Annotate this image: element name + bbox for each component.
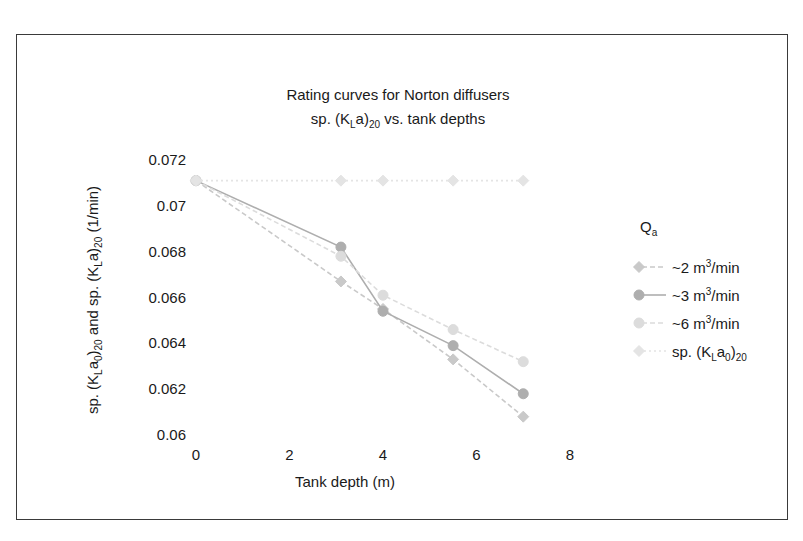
y-tick-label: 0.068 — [148, 243, 186, 260]
x-axis-title: Tank depth (m) — [295, 473, 395, 490]
y-tick-label: 0.066 — [148, 289, 186, 306]
data-point-marker — [378, 175, 389, 186]
data-point-marker — [518, 357, 528, 367]
data-point-marker — [336, 251, 346, 261]
series-diamond — [191, 175, 529, 186]
legend-item-label[interactable]: sp. (KLa0)20 — [672, 343, 747, 363]
chart-title-line1: Rating curves for Norton diffusers — [286, 86, 509, 103]
data-point-marker — [634, 318, 644, 328]
series-circle — [191, 176, 528, 399]
x-tick-label: 2 — [285, 446, 293, 463]
x-tick-label: 6 — [472, 446, 480, 463]
x-tick-label: 8 — [566, 446, 574, 463]
legend-items-group: ~2 m3/min~3 m3/min~6 m3/minsp. (KLa0)20 — [634, 258, 748, 363]
series-circle — [191, 176, 528, 367]
data-point-marker — [448, 354, 459, 365]
data-point-marker — [335, 276, 346, 287]
data-point-marker — [634, 346, 645, 357]
y-tick-label: 0.064 — [148, 334, 186, 351]
y-tick-label: 0.06 — [157, 426, 186, 443]
chart-figure: Rating curves for Norton diffusers sp. (… — [0, 0, 803, 541]
data-point-marker — [448, 325, 458, 335]
y-axis-tick-labels: 0.060.0620.0640.0660.0680.070.072 — [148, 151, 186, 443]
data-point-marker — [518, 389, 528, 399]
y-axis-title: sp. (KLa0)20 and sp. (KLa)20 (1/min) — [84, 186, 104, 414]
legend-item-label[interactable]: ~6 m3/min — [672, 314, 740, 332]
data-point-marker — [378, 306, 388, 316]
legend-item-label[interactable]: ~3 m3/min — [672, 286, 740, 304]
data-point-marker — [336, 242, 346, 252]
x-tick-label: 0 — [192, 446, 200, 463]
data-point-marker — [448, 175, 459, 186]
data-point-marker — [335, 175, 346, 186]
data-point-marker — [518, 175, 529, 186]
data-point-marker — [518, 411, 529, 422]
data-point-marker — [634, 290, 644, 300]
y-tick-label: 0.07 — [157, 197, 186, 214]
legend-item-label[interactable]: ~2 m3/min — [672, 258, 740, 276]
y-tick-label: 0.072 — [148, 151, 186, 168]
x-tick-label: 4 — [379, 446, 387, 463]
data-point-marker — [448, 341, 458, 351]
y-tick-label: 0.062 — [148, 380, 186, 397]
chart-title-line2: sp. (KLa)20 vs. tank depths — [311, 110, 485, 130]
data-point-marker — [634, 262, 645, 273]
series-line — [196, 181, 523, 394]
data-point-marker — [378, 290, 388, 300]
plot-series-group — [191, 175, 529, 422]
series-diamond — [191, 175, 529, 422]
legend-title: Qa — [640, 218, 658, 238]
series-line — [196, 181, 523, 362]
x-axis-tick-labels: 02468 — [192, 446, 574, 463]
series-line — [196, 181, 523, 417]
